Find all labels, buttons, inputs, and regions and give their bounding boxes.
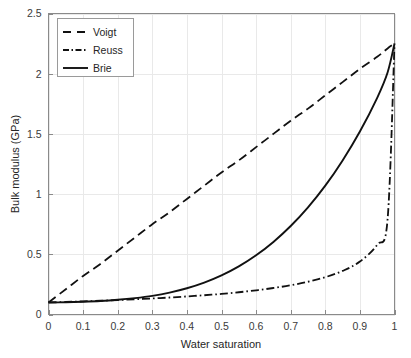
y-axis-tick-labels: 00.511.522.5 — [27, 7, 42, 320]
x-axis-tick-labels: 00.10.20.30.40.50.60.70.80.91 — [46, 320, 398, 332]
x-tick-label: 0.5 — [214, 320, 229, 332]
chart-legend: VoigtReussBrie — [58, 19, 134, 77]
data-series-group — [49, 44, 395, 303]
x-tick-label: 0.6 — [249, 320, 264, 332]
y-tick-label: 0 — [36, 308, 42, 320]
y-tick-label: 2.5 — [27, 7, 42, 19]
x-tick-label: 0.8 — [318, 320, 333, 332]
x-axis-tickmarks — [50, 310, 396, 315]
legend-label-brie: Brie — [93, 62, 112, 74]
series-line-voigt — [49, 44, 395, 303]
chart-plot: 00.10.20.30.40.50.60.70.80.91 00.511.522… — [0, 0, 411, 358]
y-tick-label: 0.5 — [27, 248, 42, 260]
x-tick-label: 0.7 — [283, 320, 298, 332]
figure-canvas: 00.10.20.30.40.50.60.70.80.91 00.511.522… — [0, 0, 411, 358]
x-tick-label: 0.3 — [145, 320, 160, 332]
x-tick-label: 0.4 — [180, 320, 195, 332]
y-tick-label: 2 — [36, 68, 42, 80]
legend-label-voigt: Voigt — [93, 26, 116, 38]
x-tick-label: 0.2 — [110, 320, 125, 332]
x-tick-label: 0 — [46, 320, 52, 332]
x-axis-title: Water saturation — [181, 338, 261, 350]
y-tick-label: 1.5 — [27, 128, 42, 140]
legend-label-reuss: Reuss — [93, 44, 123, 56]
x-tick-label: 0.1 — [76, 320, 91, 332]
x-tick-label: 0.9 — [353, 320, 368, 332]
y-axis-title: Bulk modulus (GPa) — [9, 115, 21, 213]
y-tick-label: 1 — [36, 188, 42, 200]
x-tick-label: 1 — [392, 320, 398, 332]
